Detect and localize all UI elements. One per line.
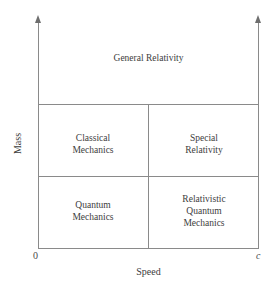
region-label-special-relativity: Special Relativity [149, 132, 259, 156]
x-axis-tick-speed-of-light: c [256, 250, 260, 261]
x-axis-tick-origin: 0 [33, 250, 38, 261]
region-label-classical-mechanics: Classical Mechanics [38, 132, 148, 156]
physics-regime-quadrant-diagram: General Relativity Classical Mechanics S… [0, 0, 278, 290]
right-boundary-arrow-up-icon [255, 15, 261, 23]
region-label-relativistic-quantum-mechanics: Relativistic Quantum Mechanics [149, 193, 259, 229]
y-axis-arrow-up-icon [35, 15, 41, 23]
region-label-general-relativity: General Relativity [38, 52, 259, 64]
y-axis-title: Mass [12, 116, 23, 172]
x-axis-title: Speed [38, 266, 259, 277]
region-label-quantum-mechanics: Quantum Mechanics [38, 199, 148, 223]
